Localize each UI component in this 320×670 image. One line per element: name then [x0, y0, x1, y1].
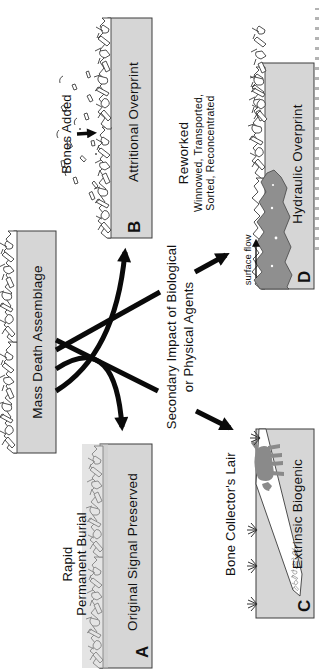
- arrow-to-d: [195, 255, 226, 272]
- panel-c-title: Extrinsic Biogenic: [290, 459, 305, 569]
- mass-death-label: Mass Death Assemblage: [30, 265, 45, 419]
- panel-d-letter: D: [295, 271, 315, 283]
- panel-a-letter: A: [133, 646, 153, 658]
- bones-added-arrow: [77, 133, 93, 134]
- panel-b-caption: Bones Added: [59, 94, 74, 174]
- panel-c-caption: Bone Collector's Lair: [223, 452, 238, 576]
- panel-c-letter: C: [295, 600, 315, 612]
- arrow-to-c: [196, 411, 230, 428]
- arrow-to-d-upper: [56, 292, 160, 350]
- panel-a-title: Original Signal Preserved: [125, 473, 140, 631]
- panel-a-strip: [82, 444, 152, 668]
- panel-d-caption-line1: Reworked: [176, 122, 191, 184]
- mass-death-strip: [0, 231, 56, 453]
- panel-b-letter: B: [125, 221, 145, 233]
- center-label-line2: or Physical Agents: [181, 282, 196, 393]
- taphonomy-diagram-art: [0, 0, 320, 670]
- rotated-diagram-canvas: Mass Death Assemblage Rapid Permanent Bu…: [0, 0, 320, 670]
- panel-a-caption-line2: Permanent Burial: [74, 512, 89, 616]
- surface-flow-label: surface flow: [242, 235, 253, 286]
- panel-a-caption-line1: Rapid: [60, 547, 75, 582]
- figure-page: Mass Death Assemblage Rapid Permanent Bu…: [0, 0, 320, 670]
- panel-d-caption-line3: Sorted, Reconcentrated: [204, 95, 216, 210]
- pathway-arrows: [56, 252, 230, 428]
- panel-d-title: Hydraulic Overprint: [290, 104, 305, 223]
- clipped-caption-edge: [315, 8, 319, 250]
- center-label-line1: Secondary Impact of Biological: [164, 245, 179, 429]
- panel-b-title: Attritional Overprint: [126, 62, 141, 182]
- panel-d-caption-line2: Winnowed, Transported,: [192, 94, 204, 212]
- arrow-to-c-upper: [56, 340, 158, 391]
